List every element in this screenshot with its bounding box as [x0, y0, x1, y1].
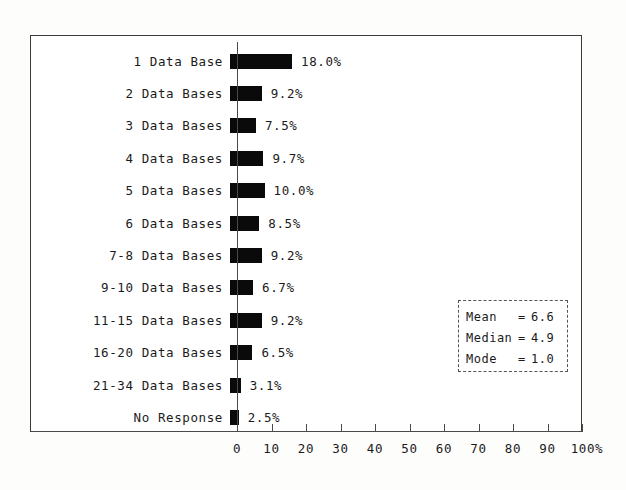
x-axis-tick	[375, 424, 376, 432]
bar-value-label: 9.2%	[262, 313, 304, 328]
bar-chart: 1 Data Base18.0%2 Data Bases9.2%3 Data B…	[0, 0, 626, 490]
x-axis-tick-label: 20	[298, 441, 314, 456]
bar-row: 6 Data Bases8.5%	[40, 212, 600, 234]
category-label: 6 Data Bases	[40, 216, 230, 231]
x-axis-tick-label: 60	[436, 441, 452, 456]
bar	[230, 54, 292, 69]
x-axis-tick	[410, 424, 411, 432]
bar-value-label: 10.0%	[265, 183, 315, 198]
statistic-equals-sign: =	[518, 310, 531, 324]
bar-value-label: 3.1%	[241, 378, 283, 393]
statistic-row: Mode=1.0	[466, 348, 561, 369]
bar-row: 2 Data Bases9.2%	[40, 82, 600, 104]
bar-row: 21-34 Data Bases3.1%	[40, 374, 600, 396]
bar-value-label: 18.0%	[292, 54, 342, 69]
bar-value-label: 9.2%	[262, 248, 304, 263]
x-axis-tick	[479, 424, 480, 432]
bar-track: 3.1%	[230, 374, 600, 396]
category-label: No Response	[40, 410, 230, 425]
category-label: 5 Data Bases	[40, 183, 230, 198]
bar	[230, 86, 262, 101]
bar	[230, 151, 263, 166]
statistic-name: Median	[466, 331, 518, 345]
bar	[230, 183, 265, 198]
bar-row: 7-8 Data Bases9.2%	[40, 244, 600, 266]
category-label: 3 Data Bases	[40, 118, 230, 133]
bar-value-label: 6.5%	[252, 345, 294, 360]
x-axis-tick-label: 80	[505, 441, 521, 456]
x-axis-tick-label: 40	[367, 441, 383, 456]
statistic-row: Median=4.9	[466, 327, 561, 348]
statistic-name: Mode	[466, 352, 518, 366]
x-axis-tick	[513, 424, 514, 432]
bar	[230, 118, 256, 133]
bar-track: 2.5%	[230, 406, 600, 428]
x-axis-tick-label: 70	[470, 441, 486, 456]
statistic-value: 4.9	[531, 331, 554, 345]
statistic-value: 1.0	[531, 352, 554, 366]
x-axis-tick-label: 0	[233, 441, 241, 456]
bar-value-label: 8.5%	[259, 216, 301, 231]
category-rows: 1 Data Base18.0%2 Data Bases9.2%3 Data B…	[0, 0, 626, 490]
bar-track: 8.5%	[230, 212, 600, 234]
bar-row: 9-10 Data Bases6.7%	[40, 277, 600, 299]
category-label: 11-15 Data Bases	[40, 313, 230, 328]
category-label: 4 Data Bases	[40, 151, 230, 166]
y-axis-line	[237, 42, 238, 432]
x-axis-tick	[444, 424, 445, 432]
x-axis-tick	[272, 424, 273, 432]
x-axis-tick	[548, 424, 549, 432]
bar	[230, 216, 259, 231]
bar-track: 9.2%	[230, 82, 600, 104]
bar	[230, 248, 262, 263]
category-label: 7-8 Data Bases	[40, 248, 230, 263]
category-label: 9-10 Data Bases	[40, 280, 230, 295]
x-axis-tick-label: 90	[539, 441, 555, 456]
bar	[230, 280, 253, 295]
bar-row: 4 Data Bases9.7%	[40, 147, 600, 169]
bar-row: 3 Data Bases7.5%	[40, 115, 600, 137]
bar-track: 6.7%	[230, 277, 600, 299]
x-axis-tick	[306, 424, 307, 432]
bar-row: No Response2.5%	[40, 406, 600, 428]
bar-value-label: 7.5%	[256, 118, 298, 133]
bar	[230, 378, 241, 393]
statistic-value: 6.6	[531, 310, 554, 324]
statistic-equals-sign: =	[518, 331, 531, 345]
bar-value-label: 9.2%	[262, 86, 304, 101]
summary-statistics-box: Mean=6.6Median=4.9Mode=1.0	[458, 300, 568, 372]
bar-track: 10.0%	[230, 180, 600, 202]
statistic-row: Mean=6.6	[466, 306, 561, 327]
category-label: 2 Data Bases	[40, 86, 230, 101]
category-label: 21-34 Data Bases	[40, 378, 230, 393]
bar-row: 1 Data Base18.0%	[40, 50, 600, 72]
x-axis-tick-label: 10	[263, 441, 279, 456]
bar-track: 9.2%	[230, 244, 600, 266]
bar-track: 18.0%	[230, 50, 600, 72]
bar-track: 9.7%	[230, 147, 600, 169]
x-axis-tick-label: 50	[401, 441, 417, 456]
category-label: 1 Data Base	[40, 54, 230, 69]
x-axis-tick	[582, 424, 583, 432]
statistic-equals-sign: =	[518, 352, 531, 366]
statistic-name: Mean	[466, 310, 518, 324]
bar	[230, 313, 262, 328]
bar-row: 5 Data Bases10.0%	[40, 180, 600, 202]
bar-track: 7.5%	[230, 115, 600, 137]
x-axis-tick-label: 100%	[571, 441, 604, 456]
x-axis-tick	[341, 424, 342, 432]
x-axis-tick-label: 30	[332, 441, 348, 456]
bar-value-label: 9.7%	[263, 151, 305, 166]
bar-value-label: 6.7%	[253, 280, 295, 295]
bar	[230, 345, 252, 360]
bar-value-label: 2.5%	[239, 410, 281, 425]
x-axis-tick	[237, 424, 238, 432]
category-label: 16-20 Data Bases	[40, 345, 230, 360]
